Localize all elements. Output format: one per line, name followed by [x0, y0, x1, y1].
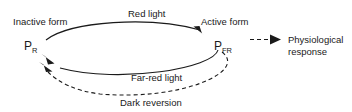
- phytochrome-cycle-diagram: P R P FR Inactive form Active form Red l…: [0, 0, 352, 112]
- node-pfr-base: P: [214, 39, 222, 53]
- node-pr-caption: Inactive form: [13, 16, 67, 27]
- node-pfr-subscript: FR: [222, 46, 233, 55]
- physiological-response-arrowhead-icon: [270, 35, 281, 45]
- diagram-canvas: P R P FR Inactive form Active form Red l…: [0, 0, 352, 112]
- red-light-arc: [46, 22, 200, 40]
- far-red-light-arc: [60, 50, 218, 75]
- outcome-label-line1: Physiological: [288, 34, 343, 45]
- edge-label-red-light: Red light: [128, 8, 166, 19]
- node-pr-base: P: [24, 39, 32, 53]
- node-pfr-caption: Active form: [201, 16, 249, 27]
- far-red-light-arrowhead-icon: [42, 54, 55, 65]
- node-pr-subscript: R: [32, 46, 38, 55]
- edge-label-far-red-light: Far-red light: [131, 72, 183, 83]
- edge-label-dark-reversion: Dark reversion: [120, 97, 182, 108]
- red-light-arrowhead-icon: [194, 26, 205, 36]
- outcome-label-line2: response: [288, 46, 327, 57]
